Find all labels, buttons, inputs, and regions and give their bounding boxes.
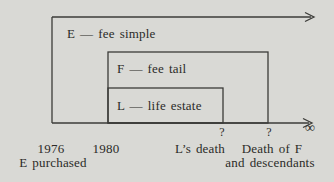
life-estate-label: L — life estate: [117, 99, 202, 113]
fee-tail-label: F — fee tail: [117, 62, 186, 76]
ls-death-question-marker: ?: [219, 126, 225, 139]
tick-label-1980: 1980: [93, 142, 120, 156]
infinity-symbol: ∞: [305, 121, 315, 136]
sublabel-e-purchased: E purchased: [19, 156, 87, 170]
tick-label-death-of-f: Death of F: [242, 142, 303, 156]
sublabel-and-descendants: and descendants: [225, 156, 314, 170]
f-death-question-marker: ?: [266, 126, 272, 139]
estates-timeline-diagram: E — fee simple F — fee tail L — life est…: [0, 0, 334, 182]
tick-label-1976: 1976: [38, 142, 65, 156]
fee-simple-label: E — fee simple: [67, 27, 156, 41]
tick-label-ls-death: L’s death: [175, 142, 225, 156]
